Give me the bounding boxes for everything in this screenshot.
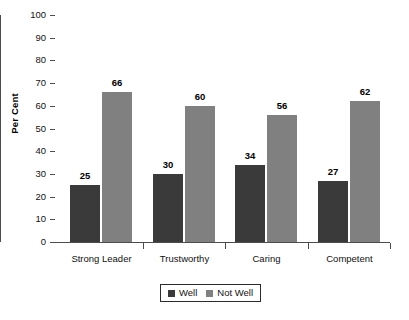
bar-value-label: 25 [69,171,101,181]
bar-not-well [185,106,215,242]
x-axis-category-label: Trustworthy [143,253,226,264]
bar-not-well [350,101,380,242]
legend-item: Well [168,288,197,298]
bars-layer [0,0,409,242]
x-axis-category-label: Caring [225,253,308,264]
bar-well [153,174,183,242]
x-axis-line [55,242,390,243]
x-axis-tick [225,243,226,249]
legend-item: Not Well [206,288,253,298]
bar-well [70,185,100,242]
bar-chart: Per Cent 0102030405060708090100 25663060… [0,0,409,320]
bar-value-label: 60 [184,92,216,102]
x-axis-category-label: Competent [308,253,391,264]
x-axis-tick [308,243,309,249]
legend-label: Well [179,288,197,298]
legend-swatch-icon [168,290,175,297]
bar-value-label: 56 [266,101,298,111]
chart-legend: WellNot Well [160,284,261,302]
bar-well [318,181,348,242]
y-axis-tick [50,242,55,243]
legend-swatch-icon [206,290,213,297]
bar-value-label: 27 [317,167,349,177]
x-axis-category-label: Strong Leader [60,253,143,264]
x-axis-tick [143,243,144,249]
bar-value-label: 62 [349,87,381,97]
x-axis-tick [390,243,391,249]
legend-label: Not Well [217,288,253,298]
bar-value-label: 34 [234,151,266,161]
bar-value-label: 66 [101,78,133,88]
bar-value-label: 30 [152,160,184,170]
bar-well [235,165,265,242]
bar-not-well [267,115,297,242]
bar-not-well [102,92,132,242]
caption-strip [0,311,409,320]
